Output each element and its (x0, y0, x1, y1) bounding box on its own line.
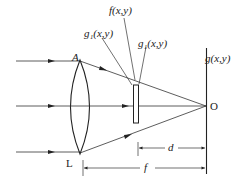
converging-rays (80, 61, 206, 153)
focal-point-label: O (210, 101, 218, 112)
lens-top-label: A (72, 52, 79, 63)
exit-field-label: g₁(x,y) (138, 38, 167, 49)
lower-ray-arrow (124, 134, 132, 139)
lens-label: L (66, 158, 73, 169)
distance-d-label: d (168, 142, 174, 153)
incident-field-label: g₁(x,y) (84, 28, 113, 39)
lens (71, 60, 90, 154)
object-plate (134, 85, 139, 123)
focal-length-label: f (144, 162, 147, 173)
diagram-graphics (0, 0, 247, 188)
output-plane-label: g(x,y) (205, 53, 230, 64)
ray-arrows (48, 59, 55, 154)
object-transmittance-label: f(x,y) (109, 5, 132, 16)
upper-ray-arrow (99, 66, 107, 71)
optics-diagram: A L f(x,y) g₁(x,y) g₁(x,y) g(x,y) O d f (0, 0, 247, 188)
axis-arrow (122, 104, 129, 108)
